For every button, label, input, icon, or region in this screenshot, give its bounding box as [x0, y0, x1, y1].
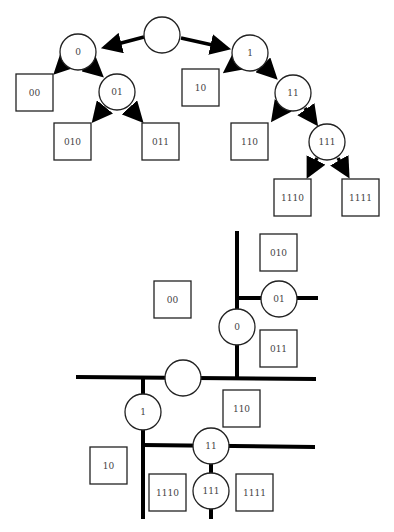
partition-root-node	[165, 360, 201, 396]
tree-leaf-10: 10	[182, 69, 219, 106]
edge-11-111	[305, 108, 315, 122]
partition-leaf-10: 10	[90, 447, 127, 484]
tree-leaf-110: 110	[231, 123, 268, 160]
leaf-label: 011	[152, 137, 169, 147]
partition-leaf-011: 011	[260, 330, 297, 367]
tree-leaf-00: 00	[16, 74, 53, 111]
tree-node-111: 111	[309, 124, 345, 160]
partition-node-11: 11	[193, 428, 229, 464]
edge-111-1111	[338, 158, 347, 174]
leaf-label: 1110	[281, 193, 304, 203]
partition-leaf-010: 010	[260, 234, 297, 271]
node-label: 01	[273, 294, 284, 304]
leaf-label: 010	[270, 248, 287, 258]
partition-leaf-00: 00	[154, 281, 191, 318]
node-label: 11	[205, 441, 216, 451]
tree-node-01: 01	[99, 74, 135, 110]
edge-01-010	[95, 108, 104, 119]
space-partition: 0 01 1 11 111 00 010 011	[76, 231, 318, 519]
tree-leaf-011: 011	[142, 123, 179, 160]
node-label: 11	[287, 88, 298, 98]
node-label: 1	[140, 407, 146, 417]
kd-tree-diagram: 0 01 1 11 111 00 010 011	[0, 0, 394, 532]
partition-node-0: 0	[219, 309, 255, 345]
partition-node-01: 01	[261, 281, 297, 317]
edge-1-11	[264, 66, 274, 76]
tree-leaf-1110: 1110	[274, 179, 311, 216]
edge-0-00	[57, 63, 65, 71]
partition-leaf-110: 110	[223, 390, 260, 427]
leaf-label: 10	[103, 461, 115, 471]
node-label: 0	[75, 47, 81, 57]
partition-leaf-1110: 1110	[149, 474, 186, 511]
leaf-label: 1110	[156, 488, 179, 498]
node-label: 0	[234, 322, 240, 332]
leaf-label: 010	[64, 137, 81, 147]
tree-leaf-010: 010	[54, 123, 91, 160]
node-label: 111	[202, 486, 219, 496]
tree-root-node	[144, 17, 180, 53]
leaf-label: 00	[29, 88, 41, 98]
edge-root-0	[106, 37, 144, 47]
node-label: 01	[111, 87, 122, 97]
edge-01-011	[130, 108, 140, 119]
partition-node-111: 111	[193, 473, 229, 509]
edge-11-110	[274, 107, 282, 118]
tree-node-11: 11	[275, 75, 311, 111]
leaf-label: 00	[167, 295, 179, 305]
tree-node-1: 1	[232, 35, 268, 71]
partition-node-1: 1	[125, 394, 161, 430]
partition-leaf-1111: 1111	[236, 474, 273, 511]
tree-node-0: 0	[60, 34, 96, 70]
leaf-label: 011	[270, 344, 287, 354]
leaf-label: 10	[195, 83, 207, 93]
leaf-label: 110	[241, 137, 258, 147]
edge-111-1110	[309, 158, 317, 174]
edge-1-10	[227, 64, 235, 70]
edge-0-01	[90, 65, 100, 74]
node-label: 111	[318, 137, 335, 147]
edge-root-1	[181, 38, 226, 48]
tree-leaf-1111: 1111	[342, 179, 379, 216]
leaf-label: 1111	[349, 193, 372, 203]
leaf-label: 1111	[243, 488, 266, 498]
binary-tree: 0 01 1 11 111 00 010 011	[16, 17, 379, 216]
node-label: 1	[247, 48, 253, 58]
leaf-label: 110	[233, 404, 250, 414]
